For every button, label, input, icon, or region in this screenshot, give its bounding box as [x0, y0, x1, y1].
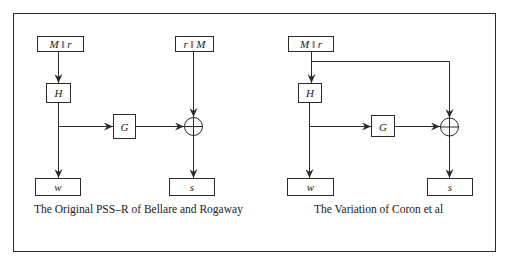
left-xor-icon	[185, 118, 203, 136]
right-arrow-input-to-xor	[312, 62, 450, 119]
right-mask-label: G	[379, 121, 387, 133]
right-hash-label: H	[305, 87, 315, 99]
left-second-input-box: r ‖ M	[176, 37, 214, 52]
right-mask-box: G	[372, 116, 395, 137]
right-output-s-label: s	[448, 181, 452, 193]
left-output-s-box: s	[170, 179, 215, 196]
right-input-box: M ‖ r	[289, 37, 334, 52]
left-hash-box: H	[47, 84, 71, 103]
left-output-w-label: w	[54, 181, 62, 193]
outer-frame	[14, 14, 496, 252]
right-caption: The Variation of Coron et al	[314, 203, 443, 215]
right-output-w-box: w	[288, 179, 334, 196]
right-xor-icon	[441, 118, 459, 136]
left-diagram: M ‖ r H G r ‖ M	[34, 37, 243, 217]
left-output-w-box: w	[36, 179, 81, 196]
right-diagram: M ‖ r H G w	[288, 37, 473, 216]
right-input-label: M ‖ r	[299, 38, 323, 50]
left-hash-label: H	[54, 87, 64, 99]
left-input-label: M ‖ r	[48, 38, 72, 50]
left-mask-box: G	[114, 115, 136, 139]
pss-r-diagram: M ‖ r H G r ‖ M	[0, 0, 508, 264]
right-hash-box: H	[299, 84, 322, 103]
left-second-input-label: r ‖ M	[183, 38, 206, 50]
right-output-w-label: w	[307, 181, 315, 193]
left-mask-label: G	[121, 121, 129, 133]
left-output-s-label: s	[190, 181, 194, 193]
right-output-s-box: s	[428, 179, 473, 196]
left-caption: The Original PSS–R of Bellare and Rogawa…	[34, 203, 243, 216]
left-input-box: M ‖ r	[38, 37, 84, 52]
